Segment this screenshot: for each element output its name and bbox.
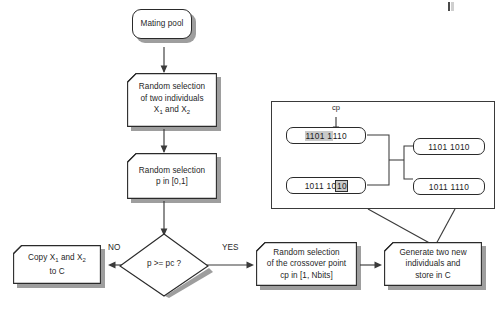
line-3: X1 and X2 [154, 105, 190, 114]
chromosome-child-2[interactable]: 1011 1110 [413, 178, 485, 195]
parent1-head: 1101 1 [305, 131, 333, 141]
cp-pointer-label: cp [332, 103, 340, 112]
parent1-tail: 110 [333, 131, 347, 141]
line-3: store in C [415, 271, 451, 280]
scan-artifact-mark [448, 2, 450, 11]
flowchart-canvas: Mating pool Random selection of two indi… [0, 0, 504, 312]
parent1-text: 1101 1110 [305, 131, 347, 141]
generate-new-label: Generate two new individuals and store i… [384, 247, 482, 282]
node-mating-pool[interactable]: Mating pool [132, 9, 192, 39]
node-decision[interactable]: p >= pc ? [118, 232, 214, 298]
chromosome-child-1[interactable]: 1101 1010 [413, 138, 485, 155]
edge-label-no: NO [108, 243, 120, 252]
edge-label-yes: YES [222, 243, 238, 252]
scan-artifact-mark-faint [451, 2, 454, 11]
node-random-individuals[interactable]: Random selection of two individuals X1 a… [127, 73, 217, 127]
copy-to-c-label: Copy X1 and X2 to C [13, 252, 101, 278]
node-crossover-point[interactable]: Random selection of the crossover point … [256, 242, 357, 286]
line-2: to C [49, 267, 64, 276]
line-2: p in [0,1] [156, 177, 188, 186]
line-3: cp in [1, Nbits] [280, 271, 333, 280]
mating-pool-label: Mating pool [133, 18, 191, 30]
chromosome-parent-2[interactable]: 1011 1010 [286, 177, 366, 194]
node-copy-to-c[interactable]: Copy X1 and X2 to C [13, 245, 101, 284]
crossover-point-label: Random selection of the crossover point … [256, 247, 357, 282]
line-2: of the crossover point [267, 259, 346, 268]
random-p-label: Random selection p in [0,1] [127, 165, 217, 188]
parent2-text: 1011 1010 [305, 181, 348, 191]
line-1: Random selection [139, 166, 205, 175]
parent2-head: 1011 10 [305, 181, 337, 191]
node-random-p[interactable]: Random selection p in [0,1] [127, 153, 217, 199]
child1-text: 1101 1010 [428, 142, 470, 152]
line-1: Copy X1 and X2 [28, 253, 86, 262]
line-1: Random selection [273, 248, 339, 257]
parent2-tail: 10 [336, 181, 347, 191]
line-2: of two individuals [140, 94, 203, 103]
line-1: Random selection [139, 82, 205, 91]
decision-label: p >= pc ? [116, 230, 212, 296]
line-1: Generate two new [399, 248, 466, 257]
line-2: individuals and [406, 259, 461, 268]
random-individuals-label: Random selection of two individuals X1 a… [127, 81, 217, 119]
child2-text: 1011 1110 [429, 182, 469, 192]
chromosome-parent-1[interactable]: 1101 1110 [286, 127, 366, 144]
node-generate-new[interactable]: Generate two new individuals and store i… [384, 242, 482, 286]
